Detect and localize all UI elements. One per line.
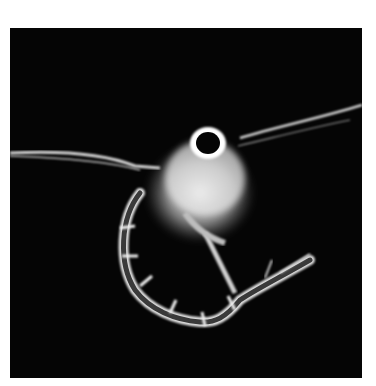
micrograph-photo	[10, 28, 362, 378]
organism-illustration	[10, 28, 362, 378]
